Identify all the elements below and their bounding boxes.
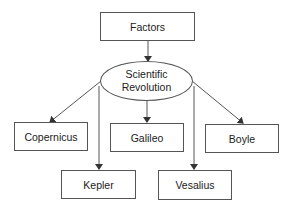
factors-node: Factors <box>100 12 195 41</box>
vesalius-label: Vesalius <box>175 179 214 191</box>
copernicus-label: Copernicus <box>24 131 77 143</box>
kepler-node: Kepler <box>61 170 136 199</box>
boyle-node: Boyle <box>205 124 279 153</box>
boyle-label: Boyle <box>229 133 255 145</box>
vesalius-node: Vesalius <box>158 170 232 200</box>
kepler-label: Kepler <box>83 179 113 191</box>
galileo-label: Galileo <box>131 132 164 144</box>
scientific-revolution-node: Scientific Revolution <box>100 61 193 101</box>
center-label-line2: Revolution <box>122 81 172 94</box>
copernicus-node: Copernicus <box>14 122 88 151</box>
factors-label: Factors <box>130 21 165 33</box>
center-label-line1: Scientific <box>125 68 167 81</box>
galileo-node: Galileo <box>110 123 184 152</box>
